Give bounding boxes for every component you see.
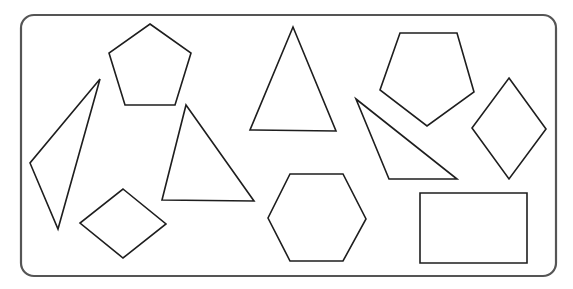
shapes-diagram — [0, 0, 573, 289]
rounded-frame — [21, 15, 556, 276]
